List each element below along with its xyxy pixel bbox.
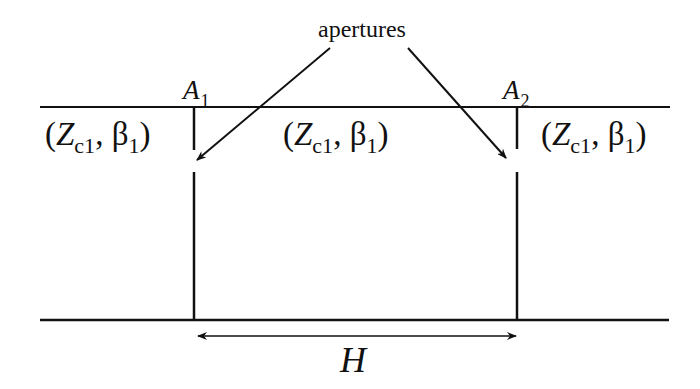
aperture-1-subscript: 1 xyxy=(201,91,210,111)
close-paren: ) xyxy=(139,116,150,152)
beta-subscript: 1 xyxy=(128,133,139,158)
impedance-symbol: Z xyxy=(56,116,74,152)
region-1-parameters: (Zc1, β1) xyxy=(45,118,150,151)
impedance-symbol: Z xyxy=(294,116,312,152)
aperture-1-letter: A xyxy=(183,75,200,105)
pointer-arrow-right xyxy=(408,48,506,158)
separator: , xyxy=(591,116,608,152)
aperture-2-label: A2 xyxy=(503,77,529,104)
aperture-2-subscript: 2 xyxy=(521,91,530,111)
apertures-label: apertures xyxy=(318,17,406,41)
impedance-subscript: c1 xyxy=(74,133,95,158)
aperture-1-label: A1 xyxy=(183,77,209,104)
open-paren: ( xyxy=(45,116,56,152)
waveguide-diagram xyxy=(0,0,700,389)
impedance-subscript: c1 xyxy=(312,133,333,158)
beta-symbol: β xyxy=(350,116,367,152)
open-paren: ( xyxy=(541,116,552,152)
beta-subscript: 1 xyxy=(366,133,377,158)
beta-symbol: β xyxy=(112,116,129,152)
beta-symbol: β xyxy=(608,116,625,152)
dimension-label-h: H xyxy=(340,342,366,378)
impedance-subscript: c1 xyxy=(570,133,591,158)
impedance-symbol: Z xyxy=(552,116,570,152)
region-3-parameters: (Zc1, β1) xyxy=(541,118,646,151)
separator: , xyxy=(95,116,112,152)
close-paren: ) xyxy=(635,116,646,152)
beta-subscript: 1 xyxy=(624,133,635,158)
close-paren: ) xyxy=(377,116,388,152)
region-2-parameters: (Zc1, β1) xyxy=(283,118,388,151)
open-paren: ( xyxy=(283,116,294,152)
separator: , xyxy=(333,116,350,152)
aperture-2-letter: A xyxy=(503,75,520,105)
